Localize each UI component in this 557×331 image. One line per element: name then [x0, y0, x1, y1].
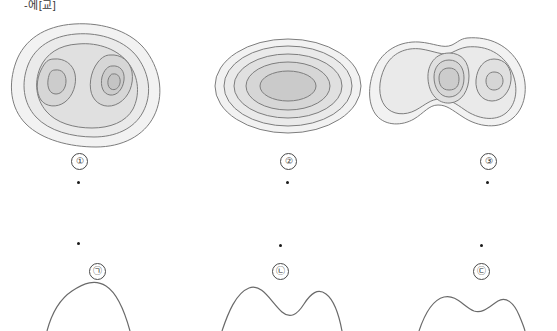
diagram-page: -에[교]: [0, 0, 557, 331]
contour-map-3: [370, 38, 526, 126]
contour-3-left-peak-ring-3: [439, 68, 459, 90]
contour-1-left-peak-ring-2: [48, 70, 66, 94]
profile-curve-3: [419, 297, 525, 331]
profile-curve-3-path: [419, 297, 525, 331]
contour-map-1: [11, 24, 159, 147]
profile-curve-3-label: ㉢: [473, 263, 490, 280]
marker-dot-5: [279, 244, 282, 247]
contour-1-right-peak-ring-3: [108, 74, 120, 90]
contour-map-2: [215, 39, 361, 133]
profile-curve-2: [222, 287, 342, 331]
contour-map-3-label: ③: [480, 153, 497, 170]
contour-map-1-label: ①: [71, 153, 88, 170]
marker-dot-4: [77, 242, 80, 245]
marker-dot-3: [486, 181, 489, 184]
marker-dot-2: [286, 181, 289, 184]
profile-curve-2-label: ㉡: [272, 263, 289, 280]
profile-curve-1-path: [47, 282, 130, 331]
contour-map-2-label: ②: [280, 153, 297, 170]
profile-curve-1-label: ㉠: [89, 263, 106, 280]
contour-2-band-5: [260, 71, 316, 101]
marker-dot-1: [77, 181, 80, 184]
marker-dot-6: [480, 244, 483, 247]
contour-3-right-peak-ring-2: [486, 72, 503, 90]
profile-curve-1: [47, 282, 130, 331]
profile-curve-2-path: [222, 287, 342, 331]
